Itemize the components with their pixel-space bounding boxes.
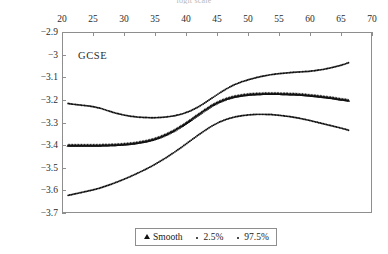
- x-tick-label: 45: [212, 14, 222, 24]
- y-tick-label: −3: [48, 50, 58, 60]
- x-tick-label: 20: [57, 14, 67, 24]
- y-tick-label: −3.2: [41, 95, 58, 105]
- marker-glyph: [196, 237, 199, 240]
- y-tick-group: −3.2: [0, 100, 58, 101]
- y-tick-group: −3.1: [0, 77, 58, 78]
- marker-glyph: [144, 234, 150, 239]
- dot-marker-icon: [234, 232, 241, 242]
- legend-entry: Smooth: [143, 232, 183, 242]
- data-layer: [62, 32, 372, 213]
- x-tick-label: 40: [181, 14, 191, 24]
- y-tick-group: −2.9: [0, 32, 58, 33]
- y-tick-label: −3.5: [41, 163, 58, 173]
- clipped-header-text: logit scale: [0, 0, 388, 4]
- y-tick-group: −3.6: [0, 190, 58, 191]
- x-tick-label: 35: [150, 14, 160, 24]
- y-tick-label: −3.7: [41, 208, 58, 218]
- y-tick-group: −3.7: [0, 213, 58, 214]
- data-marker: [347, 129, 349, 131]
- x-tick-mark: [372, 32, 373, 36]
- y-tick-label: −3.6: [41, 185, 58, 195]
- x-tick-label: 50: [243, 14, 253, 24]
- figure-root: logit scale 2025303540455055606570 −2.9−…: [0, 0, 388, 254]
- y-tick-label: −3.3: [41, 118, 58, 128]
- legend-label: Smooth: [153, 232, 183, 242]
- legend-label: 2.5%: [204, 232, 224, 242]
- x-tick-label: 25: [88, 14, 98, 24]
- y-tick-label: −2.9: [41, 27, 58, 37]
- x-tick-label: 70: [367, 14, 377, 24]
- x-tick-label: 65: [336, 14, 346, 24]
- legend-entry: 97.5%: [234, 232, 269, 242]
- y-tick-label: −3.1: [41, 72, 58, 82]
- legend-entry: 2.5%: [194, 232, 224, 242]
- series-2.5: [67, 113, 349, 196]
- triangle-marker-icon: [143, 232, 150, 242]
- legend-label: 97.5%: [244, 232, 269, 242]
- y-tick-group: −3.4: [0, 145, 58, 146]
- x-tick-label: 60: [305, 14, 315, 24]
- y-tick-group: −3.3: [0, 123, 58, 124]
- x-tick-label: 55: [274, 14, 284, 24]
- y-tick-label: −3.4: [41, 140, 58, 150]
- y-tick-group: −3.5: [0, 168, 58, 169]
- series-97.5: [67, 62, 349, 119]
- dot-marker-icon: [194, 232, 201, 242]
- y-tick-mark: [62, 213, 66, 214]
- x-tick-label: 30: [119, 14, 129, 24]
- data-marker: [347, 62, 349, 64]
- y-tick-group: −3: [0, 55, 58, 56]
- legend: Smooth2.5%97.5%: [135, 228, 277, 246]
- marker-glyph: [237, 237, 240, 240]
